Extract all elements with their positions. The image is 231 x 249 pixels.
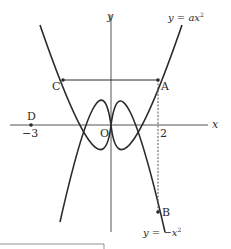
label-a: A — [160, 80, 170, 93]
point-c — [61, 78, 65, 82]
lower-curve-label: y = −x2 — [142, 226, 181, 238]
y-axis-label: y — [106, 10, 114, 23]
upper-curve-label: y = ax2 — [167, 11, 204, 23]
tick-2: 2 — [160, 127, 167, 140]
origin-label: O — [100, 127, 109, 140]
label-b: B — [162, 206, 170, 219]
label-c: C — [52, 80, 60, 93]
x-axis-label: x — [212, 118, 219, 131]
lower-parabola — [60, 100, 165, 232]
point-b — [156, 210, 160, 214]
parabola-diagram: y x O A B C D 2 −3 y = ax2 y = −x2 — [0, 0, 231, 249]
label-d: D — [27, 110, 36, 123]
answer-box-edge — [0, 244, 104, 249]
tick-neg3: −3 — [22, 127, 38, 140]
point-a — [156, 78, 160, 82]
